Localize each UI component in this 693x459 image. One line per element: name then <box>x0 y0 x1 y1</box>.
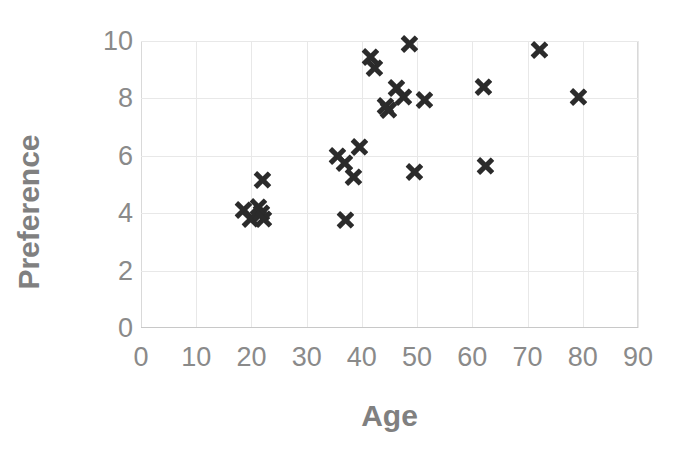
y-tick-label: 6 <box>89 143 133 170</box>
y-tick-label: 0 <box>89 315 133 342</box>
y-tick-label: 10 <box>89 28 133 55</box>
x-tick-label: 90 <box>608 344 668 371</box>
y-tick-label: 4 <box>89 200 133 227</box>
y-axis-tick-labels: 0246810 <box>85 0 133 459</box>
x-axis-line <box>141 327 638 328</box>
plot-area <box>141 41 638 328</box>
data-point <box>342 166 364 188</box>
gridline-vertical <box>307 41 308 328</box>
x-axis-tick-labels: 0102030405060708090 <box>0 344 693 384</box>
gridline-horizontal <box>141 271 638 272</box>
x-tick-label: 80 <box>553 344 613 371</box>
gridline-horizontal <box>141 156 638 157</box>
y-axis-title: Preference <box>1 42 57 382</box>
x-tick-label: 50 <box>387 344 447 371</box>
scatter-chart: Preference 0246810 0102030405060708090 A… <box>0 0 693 459</box>
x-tick-label: 30 <box>277 344 337 371</box>
data-point <box>403 161 425 183</box>
gridline-vertical <box>251 41 252 328</box>
gridline-vertical <box>528 41 529 328</box>
y-tick-label: 8 <box>89 85 133 112</box>
gridline-vertical <box>417 41 418 328</box>
x-tick-label: 60 <box>442 344 502 371</box>
x-axis-title: Age <box>141 399 638 433</box>
data-point <box>251 169 273 191</box>
y-tick-label: 2 <box>89 258 133 285</box>
gridline-vertical <box>362 41 363 328</box>
x-tick-label: 0 <box>111 344 171 371</box>
data-point <box>247 196 269 218</box>
gridline-vertical <box>583 41 584 328</box>
x-tick-label: 20 <box>221 344 281 371</box>
data-point <box>377 99 399 121</box>
x-tick-label: 70 <box>498 344 558 371</box>
gridline-horizontal <box>141 41 638 42</box>
gridline-horizontal <box>141 213 638 214</box>
x-tick-label: 40 <box>332 344 392 371</box>
data-point <box>475 155 497 177</box>
gridline-vertical <box>472 41 473 328</box>
data-point <box>567 86 589 108</box>
data-point <box>472 76 494 98</box>
data-point <box>239 208 261 230</box>
gridline-horizontal <box>141 98 638 99</box>
data-point <box>253 208 275 230</box>
data-point <box>385 77 407 99</box>
data-point <box>364 57 386 79</box>
plot-border-left <box>141 41 142 328</box>
gridline-vertical <box>196 41 197 328</box>
gridline-vertical <box>638 41 639 328</box>
x-tick-label: 10 <box>166 344 226 371</box>
data-point <box>392 86 414 108</box>
